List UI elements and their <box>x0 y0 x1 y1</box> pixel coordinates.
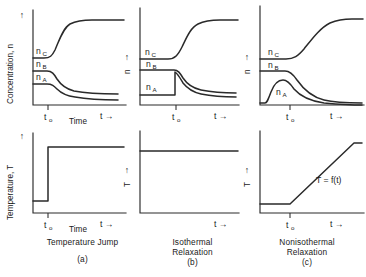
panel-a-concentration-xlabel: Time <box>69 117 87 125</box>
panel-b-concentration-yarrow: ↑ <box>125 52 129 62</box>
panel-a-temperature-yarrow: ↑ <box>20 131 24 141</box>
panel-c-concentration-xtick-sub: o <box>291 116 295 123</box>
panel-b-temperature-ylabel: T <box>123 182 132 187</box>
panel-b-concentration-xend: t → <box>214 111 227 121</box>
panel-c-concentration-xtick: t <box>286 112 289 122</box>
caption-a-line-1: Temperature Jump <box>20 237 145 247</box>
panel-b-temperature-axes <box>140 131 239 213</box>
panel-b-temperature: ↑ T t → <box>118 125 244 233</box>
curve-label-c-nB-sub: B <box>275 64 279 71</box>
curve-label-b-nC: n <box>145 47 150 57</box>
panel-c-concentration-ylabel: n <box>243 69 252 74</box>
panel-b-temperature-yarrow: ↑ <box>125 165 129 175</box>
curve-label-b-nA: n <box>146 82 151 92</box>
panel-a-concentration-xtick: t <box>44 112 47 122</box>
panel-b-concentration: ↑ n n C n B n A t o t → <box>118 0 244 125</box>
panel-c-concentration-xend: t → <box>330 111 343 121</box>
curve-label-a-nB-sub: B <box>43 63 47 70</box>
panel-a-concentration: Concentration, n ↑ n C n B n A t o Time … <box>0 0 132 125</box>
curve-label-a-nA-sub: A <box>43 76 48 83</box>
panel-c-temperature-annotation: T = f(t) <box>316 175 342 185</box>
caption-column-a: Temperature Jump (a) <box>20 237 145 264</box>
panel-c-concentration: ↑ n n C n B n A t o t → <box>238 0 366 125</box>
caption-a-tag: (a) <box>20 254 145 264</box>
panel-c-temperature-axes <box>260 131 364 213</box>
panel-b-temperature-xend: t → <box>214 219 227 229</box>
caption-b-tag: (b) <box>140 257 245 267</box>
panel-b-concentration-xtick: t <box>172 112 175 122</box>
panel-c-temperature-xtick-sub: o <box>291 224 295 231</box>
panel-a-concentration-yarrow: ↑ <box>20 10 24 20</box>
curve-label-a-nB: n <box>36 59 41 69</box>
panel-b-concentration-xtick-sub: o <box>177 116 181 123</box>
curve-label-a-nA: n <box>36 72 41 82</box>
curve-label-a-nC: n <box>36 46 41 56</box>
panel-a-temperature: Temperature, T ↑ t o Time t → <box>0 125 132 233</box>
panel-a-concentration-xtick-sub: o <box>49 116 53 123</box>
caption-b-line-2: Relaxation <box>140 247 245 257</box>
panel-c-temperature-ylabel: T <box>243 182 252 187</box>
caption-column-b: Isothermal Relaxation (b) <box>140 237 245 268</box>
caption-c-line-1: Nonisothermal <box>252 237 362 247</box>
panel-a-concentration-ylabel: Concentration, n <box>6 43 15 104</box>
panel-c-concentration-yarrow: ↑ <box>245 52 249 62</box>
figure-root: Concentration, n ↑ n C n B n A t o Time … <box>0 0 366 277</box>
panel-a-concentration-xend: t → <box>100 111 113 121</box>
curve-label-c-nB: n <box>268 60 273 70</box>
curve-a-temperature-step <box>33 147 124 201</box>
panel-a-temperature-ylabel: Temperature, T <box>6 165 15 220</box>
caption-c-tag: (c) <box>252 257 362 267</box>
panel-b-concentration-ylabel: n <box>123 69 132 74</box>
curve-label-c-nC-sub: C <box>275 51 280 58</box>
panel-a-temperature-xlabel: Time <box>69 225 87 233</box>
curve-label-a-nC-sub: C <box>43 50 48 57</box>
curve-label-b-nC-sub: C <box>152 51 157 58</box>
panel-c-temperature-xend: t → <box>330 219 343 229</box>
curve-label-b-nB-sub: B <box>153 63 157 70</box>
curve-label-b-nB: n <box>146 59 151 69</box>
curve-label-c-nA: n <box>276 87 281 97</box>
caption-c-line-2: Relaxation <box>252 247 362 257</box>
caption-column-c: Nonisothermal Relaxation (c) <box>252 237 362 268</box>
curve-label-c-nA-sub: A <box>283 91 288 98</box>
curve-label-c-nC: n <box>268 47 273 57</box>
panel-c-temperature-yarrow: ↑ <box>245 165 249 175</box>
panel-c-temperature: ↑ T T = f(t) t o t → <box>238 125 366 233</box>
curve-c-temperature-ramp <box>260 143 362 204</box>
panel-a-temperature-xtick-sub: o <box>49 224 53 231</box>
curve-label-b-nA-sub: A <box>153 86 158 93</box>
panel-a-temperature-xend: t → <box>100 219 113 229</box>
caption-b-line-1: Isothermal <box>140 237 245 247</box>
panel-c-temperature-xtick: t <box>286 220 289 230</box>
panel-a-temperature-xtick: t <box>44 220 47 230</box>
